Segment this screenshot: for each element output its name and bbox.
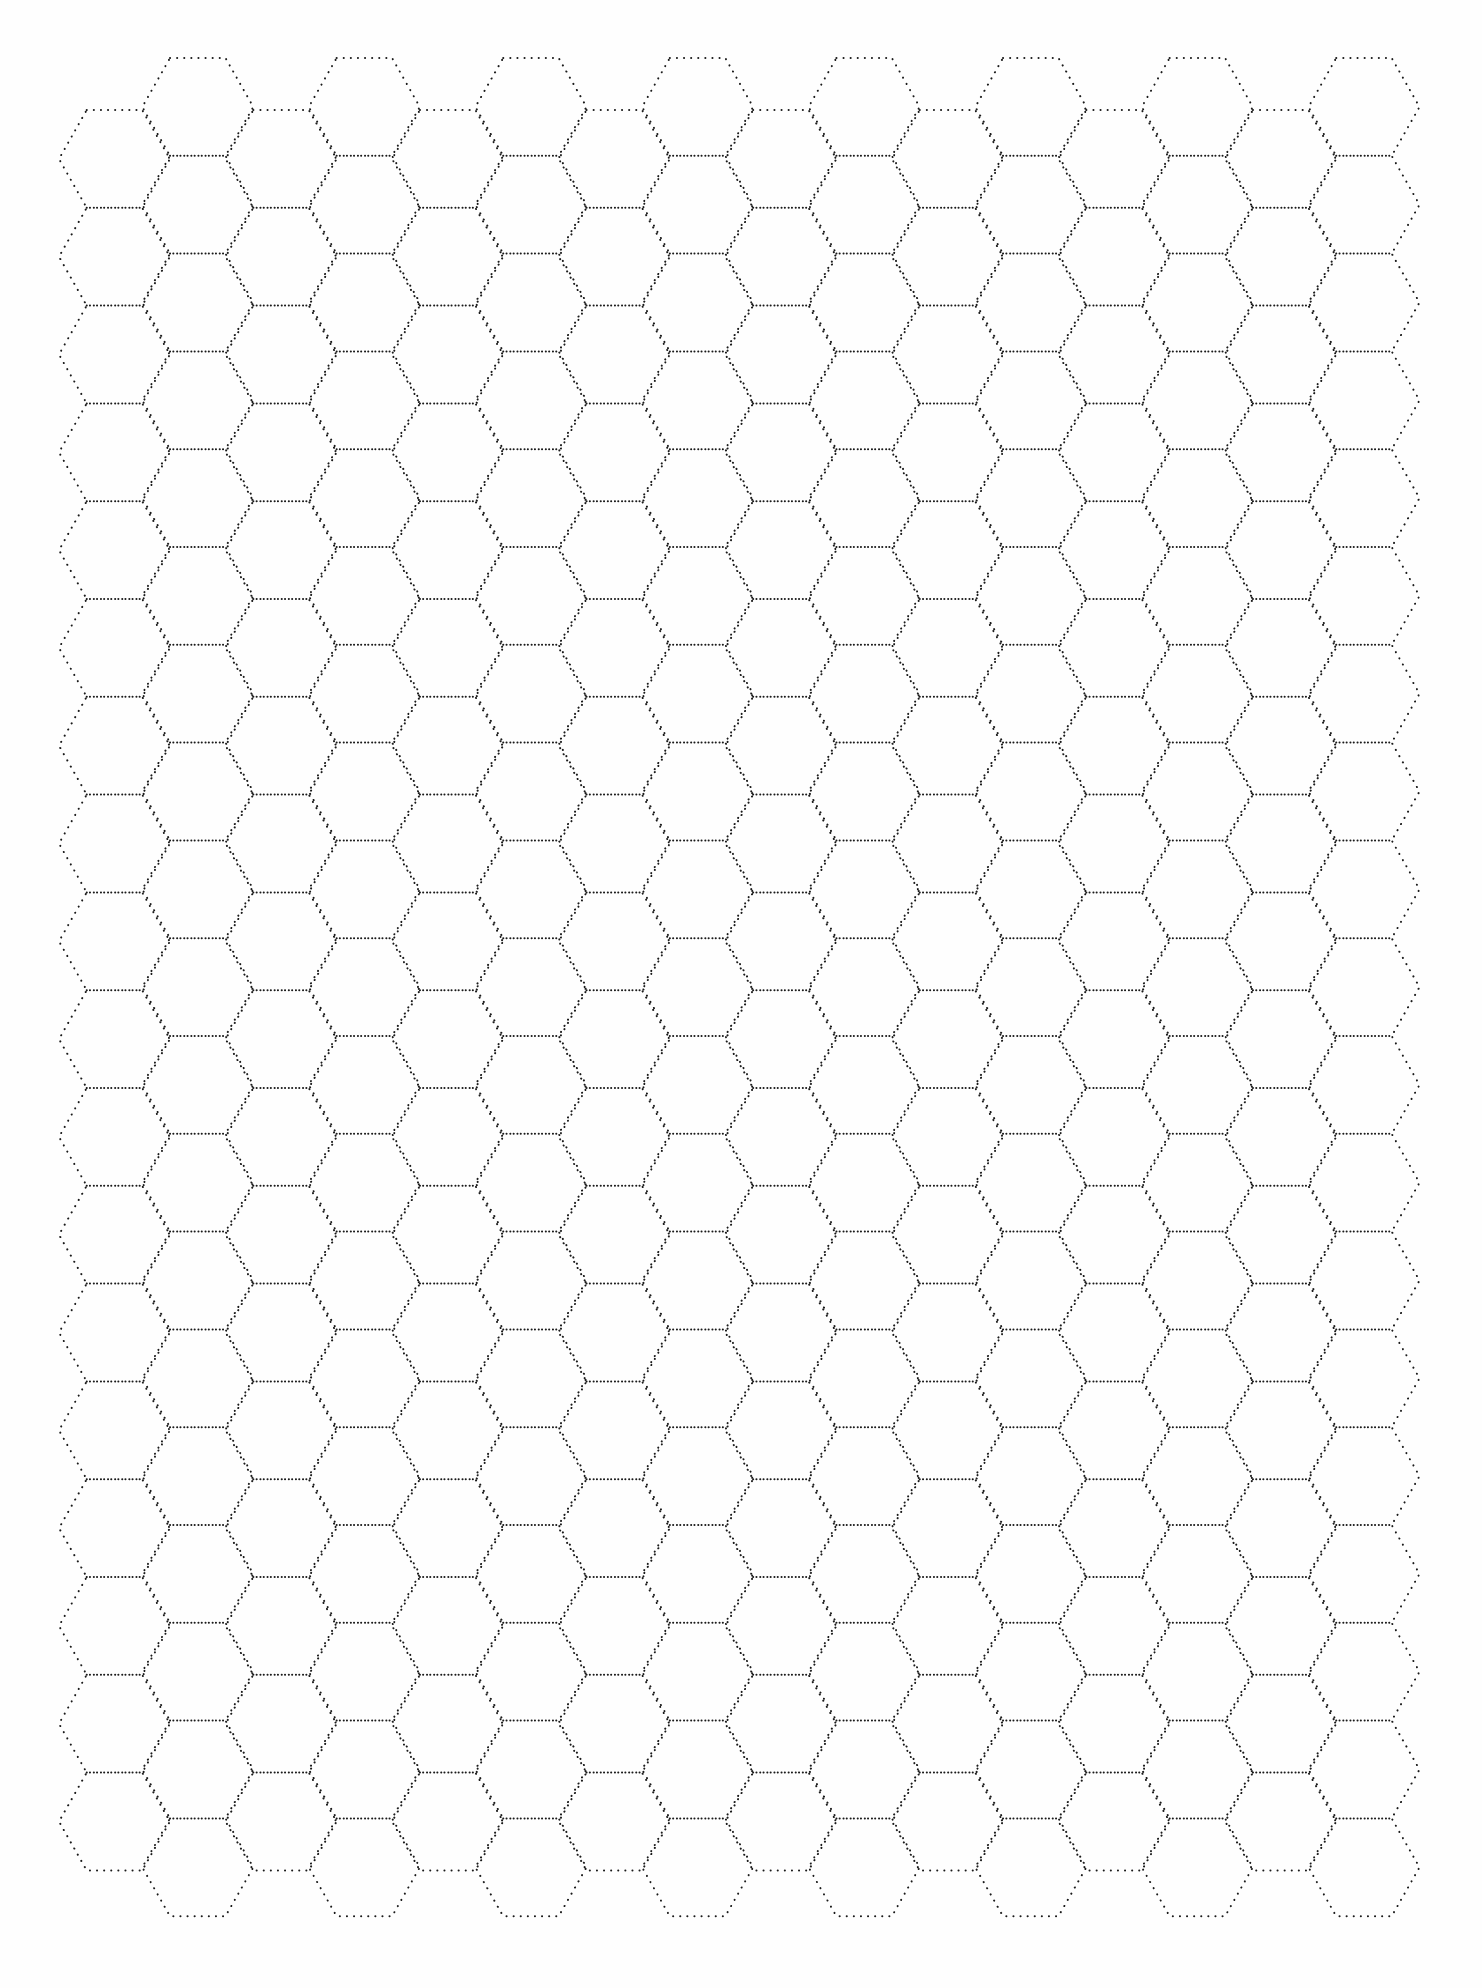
hex-cell: [725, 697, 836, 795]
hex-cell: [1142, 449, 1253, 547]
hex-cell: [1142, 938, 1253, 1036]
hex-cell: [475, 1623, 586, 1721]
hex-cell: [1059, 1381, 1170, 1479]
hex-cell: [392, 110, 503, 208]
hex-cell: [309, 1329, 420, 1427]
hex-cell: [1142, 840, 1253, 938]
hex-cell: [392, 1186, 503, 1284]
hex-cell: [559, 306, 670, 404]
hex-cell: [475, 1525, 586, 1623]
hex-cell: [725, 1284, 836, 1382]
hex-cell: [975, 840, 1086, 938]
hex-cell: [475, 645, 586, 743]
hex-cell: [1225, 1284, 1336, 1382]
hex-cell: [1142, 1036, 1253, 1134]
hex-cell: [1059, 208, 1170, 306]
hex-cell: [1225, 110, 1336, 208]
hex-cell: [975, 1329, 1086, 1427]
hex-cell: [142, 645, 253, 743]
hex-cell: [59, 1577, 170, 1675]
hex-cell: [642, 1329, 753, 1427]
hex-cell: [1059, 1284, 1170, 1382]
hex-cell: [226, 501, 337, 599]
hex-cell: [725, 110, 836, 208]
hex-cell: [142, 1134, 253, 1232]
hex-cell: [642, 156, 753, 254]
hex-cell: [59, 892, 170, 990]
hex-cell: [1142, 743, 1253, 841]
hex-cell: [309, 840, 420, 938]
hex-cell: [809, 449, 920, 547]
hex-cell: [226, 1381, 337, 1479]
hex-cell: [1225, 306, 1336, 404]
hex-cell: [809, 938, 920, 1036]
hex-cell: [725, 1088, 836, 1186]
hex-cell: [1059, 892, 1170, 990]
hex-cell: [809, 1818, 920, 1916]
hex-cell: [1309, 254, 1420, 352]
hex-cell: [642, 1721, 753, 1819]
hex-cell: [392, 990, 503, 1088]
hex-cell: [975, 449, 1086, 547]
hex-cell: [1309, 840, 1420, 938]
hex-cell: [809, 1525, 920, 1623]
hex-cell: [642, 58, 753, 156]
hex-cell: [309, 1036, 420, 1134]
hex-cell: [59, 208, 170, 306]
hex-cell: [1225, 1479, 1336, 1577]
hex-cell: [1059, 697, 1170, 795]
hex-cell: [142, 938, 253, 1036]
hex-cell: [226, 208, 337, 306]
hex-cell: [309, 1623, 420, 1721]
hex-cell: [975, 743, 1086, 841]
hex-cell: [309, 156, 420, 254]
hex-cell: [392, 599, 503, 697]
hex-cell: [226, 892, 337, 990]
hex-cell: [892, 306, 1003, 404]
hex-cell: [142, 1232, 253, 1330]
hex-cell: [475, 840, 586, 938]
hex-cell: [1309, 1329, 1420, 1427]
hex-cell: [475, 938, 586, 1036]
hex-cell: [392, 1479, 503, 1577]
hex-cell: [392, 1381, 503, 1479]
hex-cell: [1059, 403, 1170, 501]
hex-cell: [809, 1623, 920, 1721]
hex-cell: [1309, 1721, 1420, 1819]
hex-cell: [642, 449, 753, 547]
hex-cell: [975, 156, 1086, 254]
hex-cell: [1142, 58, 1253, 156]
hex-cell: [59, 990, 170, 1088]
hex-cell: [975, 645, 1086, 743]
hex-cell: [226, 795, 337, 893]
hex-cell: [725, 1675, 836, 1773]
hex-cell: [892, 1088, 1003, 1186]
hex-cell: [226, 1479, 337, 1577]
hex-cell: [642, 645, 753, 743]
hex-cell: [59, 599, 170, 697]
hex-cell: [809, 1134, 920, 1232]
hex-cell: [142, 547, 253, 645]
hex-cell: [892, 892, 1003, 990]
hex-cell: [1142, 1427, 1253, 1525]
hex-cell: [559, 1284, 670, 1382]
hex-cell: [59, 110, 170, 208]
hex-cell: [809, 156, 920, 254]
hex-cell: [975, 547, 1086, 645]
hex-cell: [1309, 1623, 1420, 1721]
hex-cell: [309, 1232, 420, 1330]
hex-cell: [59, 1381, 170, 1479]
hex-cell: [1142, 547, 1253, 645]
hex-cell: [475, 254, 586, 352]
hex-cell: [1225, 403, 1336, 501]
hex-cell: [809, 840, 920, 938]
hex-cell: [309, 351, 420, 449]
hex-cell: [975, 1721, 1086, 1819]
hex-cell: [559, 697, 670, 795]
hex-cell: [642, 743, 753, 841]
hex-cell: [559, 599, 670, 697]
hex-cell: [1225, 1088, 1336, 1186]
hex-cell: [725, 795, 836, 893]
hex-cell: [392, 1675, 503, 1773]
hex-cell: [1225, 1577, 1336, 1675]
